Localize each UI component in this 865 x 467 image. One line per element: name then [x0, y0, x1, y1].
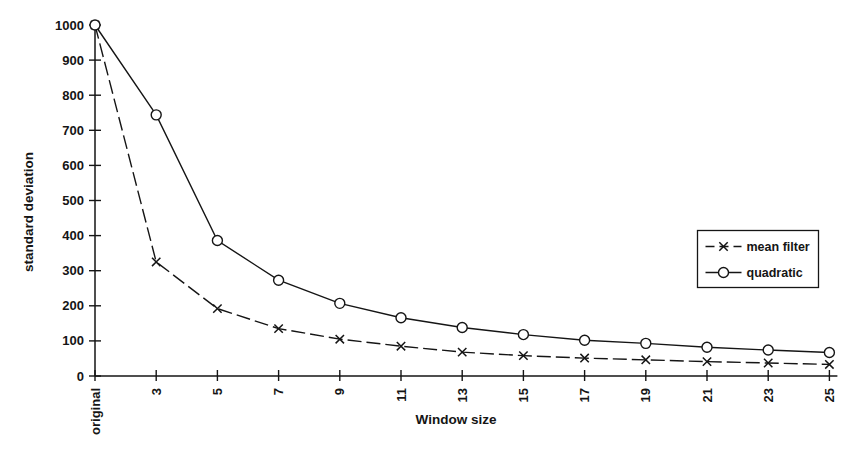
x-tick-label: 17: [577, 388, 592, 402]
y-tick-label: 700: [62, 123, 84, 138]
circle-marker-icon: [824, 347, 834, 357]
circle-marker-icon: [518, 330, 528, 340]
x-marker-icon: [152, 258, 160, 266]
circle-marker-icon: [457, 323, 467, 333]
x-tick-label: 3: [149, 388, 164, 395]
y-axis-title: standard deviation: [21, 152, 36, 272]
y-tick-label: 800: [62, 88, 84, 103]
x-tick-label: original: [88, 388, 103, 435]
legend-label: mean filter: [747, 240, 810, 254]
x-tick-label: 13: [455, 388, 470, 402]
circle-marker-icon: [274, 275, 284, 285]
x-axis-title: Window size: [416, 412, 497, 427]
y-tick-label: 900: [62, 53, 84, 68]
y-tick-label: 1000: [55, 18, 84, 33]
x-tick-label: 15: [516, 388, 531, 402]
series-quadratic: [90, 20, 834, 357]
circle-marker-icon: [763, 345, 773, 355]
line-chart: 01002003004005006007008009001000original…: [0, 0, 865, 467]
x-tick-label: 25: [822, 388, 837, 402]
y-tick-label: 600: [62, 158, 84, 173]
circle-marker-icon: [90, 20, 100, 30]
y-tick-label: 100: [62, 333, 84, 348]
x-tick-label: 19: [638, 388, 653, 402]
circle-marker-icon: [151, 110, 161, 120]
series-line: [95, 25, 829, 364]
circle-marker-icon: [702, 342, 712, 352]
x-tick-label: 11: [394, 388, 409, 402]
y-tick-label: 500: [62, 193, 84, 208]
y-tick-label: 300: [62, 263, 84, 278]
circle-marker-icon: [580, 335, 590, 345]
series-line: [95, 25, 829, 352]
circle-marker-icon: [396, 313, 406, 323]
legend-label: quadratic: [747, 266, 803, 280]
x-tick-label: 21: [700, 388, 715, 402]
y-tick-label: 200: [62, 298, 84, 313]
y-tick-label: 400: [62, 228, 84, 243]
y-tick-label: 0: [77, 369, 84, 384]
series-mean-filter: [91, 21, 834, 369]
circle-marker-icon: [719, 268, 729, 278]
circle-marker-icon: [212, 236, 222, 246]
chart-figure: 01002003004005006007008009001000original…: [0, 0, 865, 467]
x-marker-icon: [213, 304, 221, 312]
x-tick-label: 9: [332, 388, 347, 395]
circle-marker-icon: [335, 298, 345, 308]
x-tick-label: 7: [271, 388, 286, 395]
x-tick-label: 5: [210, 388, 225, 395]
legend: mean filterquadratic: [698, 231, 819, 288]
circle-marker-icon: [641, 338, 651, 348]
x-tick-label: 23: [761, 388, 776, 402]
